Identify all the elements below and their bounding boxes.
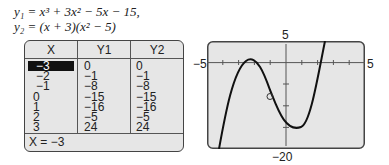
y2-column: 0 −1 −8 −15 −16 −5 24 xyxy=(136,61,156,132)
header-x: X xyxy=(25,43,77,57)
equation-y2: y₂ = (x + 3)(x² − 5) xyxy=(14,19,116,35)
table-cell[interactable]: 24 xyxy=(84,122,104,132)
table-cell-selected[interactable]: −3 xyxy=(28,61,74,71)
header-y1: Y1 xyxy=(78,43,130,57)
table-header: X Y1 Y2 xyxy=(25,41,183,59)
graph-window xyxy=(207,41,365,149)
table-cell[interactable]: 24 xyxy=(136,122,156,132)
table-footer: X = −3 xyxy=(25,133,183,151)
divider xyxy=(130,41,131,133)
ymax-label: 5 xyxy=(282,28,289,42)
value-table: X Y1 Y2 −3 −2 −1 0 1 2 3 0 −1 −8 −15 −16… xyxy=(24,40,184,152)
xmax-label: 5 xyxy=(367,57,374,71)
equation-y1: y₁ = x³ + 3x² − 5x − 15, xyxy=(14,4,140,20)
table-cell[interactable]: 3 xyxy=(28,122,74,132)
y1-column: 0 −1 −8 −15 −16 −5 24 xyxy=(84,61,104,132)
x-column: −3 −2 −1 0 1 2 3 xyxy=(28,61,74,132)
ymin-label: −20 xyxy=(272,150,292,164)
header-y2: Y2 xyxy=(131,43,183,57)
table-cell[interactable]: −2 xyxy=(28,71,74,81)
divider xyxy=(77,41,78,133)
xmin-label: −5 xyxy=(193,57,207,71)
